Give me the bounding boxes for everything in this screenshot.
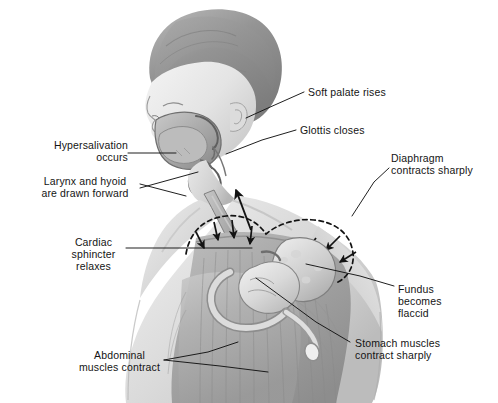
callout-glottis-closes[interactable]: Glottis closes <box>300 124 365 136</box>
callout-abdominal-muscles-contract[interactable]: Abdominal muscles contract <box>75 349 164 373</box>
callout-fundus-becomes-flaccid[interactable]: Fundus becomes flaccid <box>398 283 442 320</box>
anatomical-diagram: Soft palate rises Glottis closes Diaphra… <box>0 0 498 403</box>
leader-diaphragm <box>352 168 389 216</box>
callout-cardiac-sphincter-relaxes[interactable]: Cardiac sphincter relaxes <box>61 236 126 273</box>
callout-larynx-and-hyoid-are-drawn-forward[interactable]: Larynx and hyoid are drawn forward <box>30 175 140 199</box>
callout-soft-palate-rises[interactable]: Soft palate rises <box>308 86 386 98</box>
callout-stomach-muscles-contract-sharply[interactable]: Stomach muscles contract sharply <box>355 337 440 361</box>
callout-hypersalivation-occurs[interactable]: Hypersalivation occurs <box>24 139 128 163</box>
callout-diaphragm-contracts-sharply[interactable]: Diaphragm contracts sharply <box>391 152 473 176</box>
